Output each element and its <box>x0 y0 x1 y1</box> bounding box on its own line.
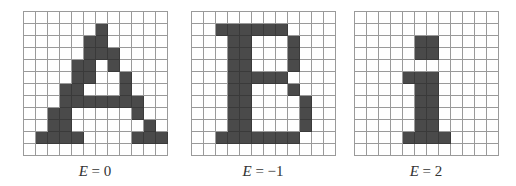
pixel-off <box>204 36 216 48</box>
pixel-off <box>108 36 120 48</box>
pixel-off <box>312 48 324 60</box>
pixel-off <box>451 144 463 156</box>
pixel-off <box>108 120 120 132</box>
pixel-off <box>439 96 451 108</box>
pixel-off <box>24 24 36 36</box>
pixel-on <box>427 96 439 108</box>
pixel-off <box>156 60 168 72</box>
pixel-off <box>60 36 72 48</box>
pixel-off <box>156 84 168 96</box>
pixel-on <box>84 60 96 72</box>
pixel-off <box>264 144 276 156</box>
pixel-off <box>451 60 463 72</box>
pixel-off <box>72 12 84 24</box>
pixel-on <box>252 72 264 84</box>
pixel-off <box>24 108 36 120</box>
pixel-off <box>108 12 120 24</box>
pixel-on <box>84 48 96 60</box>
pixel-off <box>108 72 120 84</box>
pixel-off <box>463 120 475 132</box>
pixel-off <box>204 144 216 156</box>
pixel-off <box>156 96 168 108</box>
pixel-off <box>379 132 391 144</box>
pixel-off <box>108 132 120 144</box>
pixel-off <box>204 84 216 96</box>
pixel-off <box>288 120 300 132</box>
pixel-on <box>415 120 427 132</box>
pixel-off <box>427 24 439 36</box>
pixel-on <box>72 132 84 144</box>
pixel-off <box>367 84 379 96</box>
pixel-off <box>415 24 427 36</box>
pixel-off <box>192 24 204 36</box>
pixel-off <box>355 36 367 48</box>
pixel-off <box>463 48 475 60</box>
pixel-on <box>228 72 240 84</box>
pixel-on <box>228 132 240 144</box>
pixel-off <box>312 132 324 144</box>
pixel-off <box>427 12 439 24</box>
pixel-off <box>132 84 144 96</box>
pixel-off <box>192 72 204 84</box>
panel-a: E = 0 <box>23 11 167 156</box>
pixel-off <box>475 108 487 120</box>
pixel-off <box>367 108 379 120</box>
pixel-off <box>24 12 36 24</box>
pixel-off <box>120 108 132 120</box>
pixel-off <box>156 72 168 84</box>
pixel-off <box>264 108 276 120</box>
pixel-off <box>276 60 288 72</box>
pixel-off <box>487 36 499 48</box>
energy-var: E <box>410 163 419 179</box>
pixel-off <box>144 24 156 36</box>
energy-label-b: E = −1 <box>191 163 335 180</box>
pixel-off <box>300 72 312 84</box>
pixel-off <box>48 72 60 84</box>
pixel-on <box>36 132 48 144</box>
pixel-on <box>156 132 168 144</box>
pixel-off <box>132 48 144 60</box>
pixel-on <box>120 84 132 96</box>
pixel-on <box>427 36 439 48</box>
pixel-off <box>24 36 36 48</box>
energy-var: E <box>79 163 88 179</box>
pixel-off <box>379 48 391 60</box>
pixel-off <box>120 48 132 60</box>
pixel-off <box>367 120 379 132</box>
pixel-off <box>355 132 367 144</box>
pixel-off <box>252 96 264 108</box>
pixel-off <box>367 72 379 84</box>
pixel-off <box>403 36 415 48</box>
pixel-on <box>415 48 427 60</box>
pixel-off <box>355 84 367 96</box>
pixel-off <box>367 48 379 60</box>
pixel-off <box>60 60 72 72</box>
pixel-off <box>312 144 324 156</box>
pixel-on <box>415 96 427 108</box>
pixel-off <box>120 60 132 72</box>
pixel-on <box>120 96 132 108</box>
pixel-off <box>391 144 403 156</box>
pixel-off <box>276 108 288 120</box>
pixel-off <box>475 24 487 36</box>
pixel-off <box>36 60 48 72</box>
pixel-off <box>391 96 403 108</box>
pixel-off <box>156 144 168 156</box>
pixel-off <box>367 24 379 36</box>
pixel-off <box>204 48 216 60</box>
pixel-on <box>228 96 240 108</box>
pixel-off <box>475 132 487 144</box>
pixel-on <box>403 72 415 84</box>
pixel-off <box>252 12 264 24</box>
pixel-on <box>252 132 264 144</box>
pixel-off <box>439 12 451 24</box>
pixel-on <box>228 84 240 96</box>
pixel-off <box>240 144 252 156</box>
pixel-off <box>367 60 379 72</box>
pixel-off <box>288 108 300 120</box>
pixel-off <box>192 144 204 156</box>
pixel-off <box>439 72 451 84</box>
pixel-off <box>60 72 72 84</box>
pixel-on <box>427 84 439 96</box>
panel-i: E = 2 <box>354 11 498 156</box>
